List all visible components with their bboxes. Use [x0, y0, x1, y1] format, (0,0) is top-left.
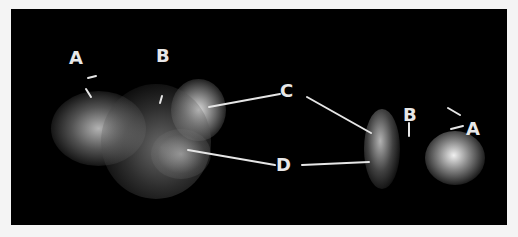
label-c: C: [280, 82, 293, 100]
label-b-right: B: [403, 106, 417, 124]
label-a-right: A: [466, 120, 480, 138]
label-b-left: B: [156, 47, 170, 65]
label-d: D: [276, 156, 291, 174]
annotation-lines: [11, 9, 507, 225]
label-a-left: A: [69, 49, 83, 67]
micrograph-panel: A B C D B A: [11, 9, 507, 225]
